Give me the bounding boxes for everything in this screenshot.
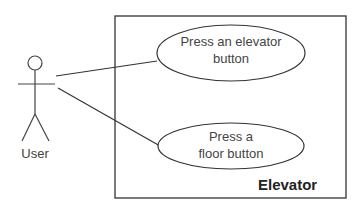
- use-case-2-line2: floor button: [161, 145, 301, 162]
- use-case-1-label: Press an elevator button: [161, 33, 301, 67]
- association-line-1: [56, 61, 157, 76]
- use-case-1-line2: button: [161, 50, 301, 67]
- use-case-2-label: Press a floor button: [161, 128, 301, 162]
- association-line-2: [58, 88, 160, 146]
- use-case-1-line1: Press an elevator: [161, 33, 301, 50]
- actor-icon: [18, 56, 55, 141]
- use-case-2-line1: Press a: [161, 128, 301, 145]
- system-label: Elevator: [258, 176, 317, 193]
- actor-label: User: [15, 145, 55, 162]
- use-case-diagram: User Press an elevator button Press a fl…: [0, 0, 363, 210]
